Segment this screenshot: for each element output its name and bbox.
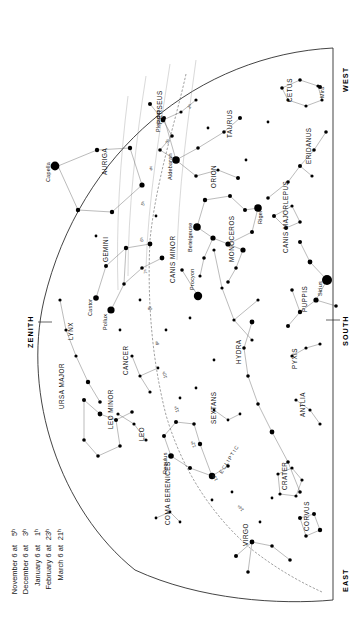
constellation-label: LYNX: [67, 322, 74, 340]
star-labels: Capella Aldebaran Pleiades Mira Rigel Be…: [45, 86, 325, 474]
hour-label: 10ʰ: [162, 371, 168, 379]
constellation-label: ANTLIA: [299, 392, 306, 417]
ecliptic-line: [149, 74, 322, 592]
constellation-label: LEO MINOR: [107, 389, 114, 429]
star-label: Aldebaran: [167, 153, 173, 180]
constellation-label: CANIS MINOR: [169, 236, 176, 283]
direction-label-west: WEST: [341, 67, 350, 92]
hour-label: 2ʰ: [187, 103, 194, 109]
hour-label: 12ʰ: [190, 440, 197, 448]
star-label: Castor: [87, 299, 93, 316]
constellation-label: TAURUS: [226, 110, 233, 138]
constellation-label: CRATER: [281, 462, 288, 490]
constellation-lines: [58, 80, 336, 572]
star-label: Regulus: [162, 452, 168, 474]
constellation-label: URSA MAJOR: [58, 363, 65, 409]
direction-label-south: SOUTH: [341, 315, 350, 346]
ecliptic-label: ECLIPTIC: [218, 443, 241, 474]
constellation-label: LEO: [138, 427, 145, 441]
constellation-label: ORION: [210, 165, 217, 188]
constellation-label: CETUS: [286, 78, 293, 102]
hour-label: 4ʰ: [148, 165, 154, 171]
star-label: Betelgeuse: [187, 222, 193, 252]
hour-label: 6ʰ: [139, 237, 145, 242]
star-label: Mira: [319, 86, 325, 98]
constellation-label: CANCER: [122, 345, 129, 375]
constellation-label: HYDRA: [235, 339, 242, 364]
constellation-label: PYXIS: [291, 348, 298, 369]
constellation-label: CORVUS: [303, 501, 310, 531]
constellation-label: PUPPIS: [301, 286, 308, 312]
hour-label: 8ʰ: [148, 305, 153, 310]
star-label: Pollux: [102, 314, 108, 330]
constellation-label: SEXTANS: [210, 392, 217, 424]
star-label: Rigel: [257, 210, 263, 224]
direction-label-east: EAST: [341, 568, 350, 592]
star-chart: ECLIPTIC: [0, 0, 356, 625]
hour-label: 9ʰ: [155, 340, 160, 345]
star-label: Sirius: [317, 281, 323, 296]
star-label: Pleiades: [155, 109, 161, 132]
constellation-label: CANIS MAJOR: [282, 204, 289, 253]
hour-label: 7ʰ: [143, 269, 148, 274]
hour-label: 5ʰ: [140, 201, 146, 207]
star-label: Procyon: [189, 268, 195, 290]
constellation-label: ERIDANUS: [305, 127, 312, 164]
constellation-label: GEMINI: [102, 237, 109, 262]
constellation-label: VIRGO: [242, 523, 249, 546]
hour-label: 14ʰ: [237, 504, 245, 513]
star-points: [51, 78, 338, 574]
star-label: Capella: [45, 161, 51, 182]
hour-label: 11ʰ: [173, 405, 180, 413]
zenith-label: ZENITH: [26, 315, 35, 348]
constellation-label: MONOCEROS: [228, 216, 235, 262]
constellation-label: LEPUS: [282, 181, 289, 204]
constellation-label: AURIGA: [101, 148, 108, 175]
